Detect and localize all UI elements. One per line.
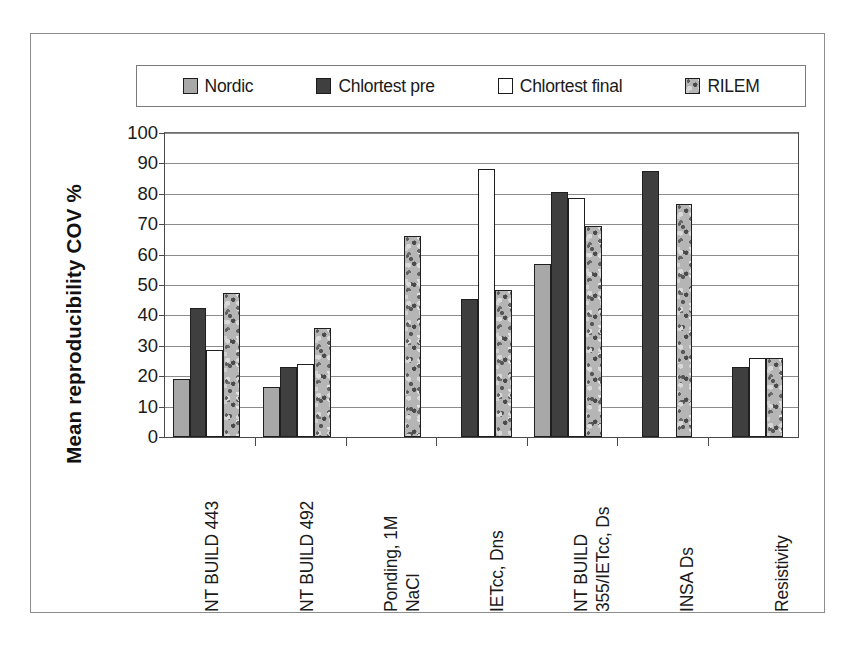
x-axis-label-line: NaCl xyxy=(402,574,424,612)
legend-label: Chlortest pre xyxy=(338,76,434,97)
x-axis-label-line: IETcc, Dns xyxy=(485,530,507,612)
legend-item-pre[interactable]: Chlortest pre xyxy=(316,76,434,97)
y-tick-label: 20 xyxy=(137,365,158,387)
legend-item-nordic[interactable]: Nordic xyxy=(183,76,254,97)
legend-swatch-pre-icon xyxy=(316,78,331,94)
chart-figure-frame: NordicChlortest preChlortest finalRILEM … xyxy=(30,33,825,613)
bar-rilem[interactable] xyxy=(223,293,240,437)
bar-rilem[interactable] xyxy=(314,328,331,437)
bar-final[interactable] xyxy=(749,358,766,437)
plot-area: 1009080706050403020100 xyxy=(164,132,799,438)
legend-label: Nordic xyxy=(205,76,254,97)
x-axis-label-line: Resistivity xyxy=(770,535,792,612)
bar-nordic[interactable] xyxy=(534,264,551,437)
plot-wrapper: 1009080706050403020100 xyxy=(134,132,799,438)
bar-pre[interactable] xyxy=(551,192,568,437)
y-tick-label: 60 xyxy=(137,244,158,266)
legend-item-rilem[interactable]: RILEM xyxy=(685,76,759,97)
y-tick-label: 10 xyxy=(137,396,158,418)
bar-rilem[interactable] xyxy=(585,226,602,437)
x-axis-label-line: NT BUILD 443 xyxy=(200,501,222,612)
bar-group xyxy=(625,133,693,437)
bar-final[interactable] xyxy=(478,169,495,437)
bar-group xyxy=(534,133,602,437)
x-axis-label: Ponding, 1MNaCl xyxy=(380,442,424,612)
bars-layer xyxy=(165,133,798,437)
y-tick-label: 70 xyxy=(137,213,158,235)
x-axis-label: NT BUILD 443 xyxy=(190,442,234,612)
x-axis-label: IETcc, Dns xyxy=(475,442,519,612)
x-axis-label: NT BUILD355/IETcc, Ds xyxy=(570,442,614,612)
bar-rilem[interactable] xyxy=(676,204,693,437)
x-axis-label-line: INSA Ds xyxy=(675,547,697,612)
legend-swatch-rilem-icon xyxy=(685,78,700,94)
bar-rilem[interactable] xyxy=(404,236,421,437)
bar-final[interactable] xyxy=(206,350,223,437)
legend-label: RILEM xyxy=(707,76,759,97)
x-axis-label-line: NT BUILD 492 xyxy=(295,501,317,612)
bar-pre[interactable] xyxy=(280,367,297,437)
y-tick-label: 0 xyxy=(148,426,158,448)
bar-final[interactable] xyxy=(297,364,314,437)
bar-group xyxy=(173,133,241,437)
legend-swatch-nordic-icon xyxy=(183,78,198,94)
bar-pre[interactable] xyxy=(190,308,207,437)
bar-pre[interactable] xyxy=(732,367,749,437)
legend-label: Chlortest final xyxy=(520,76,623,97)
x-axis-label-line: 355/IETcc, Ds xyxy=(592,507,614,612)
x-axis-labels: NT BUILD 443NT BUILD 492Ponding, 1MNaClI… xyxy=(164,442,829,627)
bar-rilem[interactable] xyxy=(766,358,783,437)
x-axis-label: NT BUILD 492 xyxy=(285,442,329,612)
x-axis-label-line: Ponding, 1M xyxy=(379,516,401,612)
legend-item-final[interactable]: Chlortest final xyxy=(498,76,623,97)
y-tick-label: 100 xyxy=(127,122,158,144)
bar-group xyxy=(263,133,331,437)
y-tick-label: 80 xyxy=(137,183,158,205)
bar-group xyxy=(715,133,783,437)
y-tick-mark xyxy=(159,437,165,438)
bar-final[interactable] xyxy=(568,198,585,437)
bar-group xyxy=(444,133,512,437)
bar-rilem[interactable] xyxy=(495,290,512,437)
bar-nordic[interactable] xyxy=(173,379,190,437)
x-axis-label-line: NT BUILD xyxy=(569,534,591,612)
y-axis-title: Mean reproducibility COV % xyxy=(59,174,89,474)
x-axis-label: Resistivity xyxy=(760,442,804,612)
x-axis-label: INSA Ds xyxy=(665,442,709,612)
y-tick-label: 50 xyxy=(137,274,158,296)
y-tick-label: 30 xyxy=(137,335,158,357)
legend-swatch-final-icon xyxy=(498,78,513,94)
y-tick-label: 40 xyxy=(137,304,158,326)
bar-pre[interactable] xyxy=(461,299,478,437)
bar-nordic[interactable] xyxy=(263,387,280,437)
bar-group xyxy=(354,133,422,437)
y-tick-label: 90 xyxy=(137,152,158,174)
bar-pre[interactable] xyxy=(642,171,659,437)
chart-legend: NordicChlortest preChlortest finalRILEM xyxy=(136,65,806,107)
